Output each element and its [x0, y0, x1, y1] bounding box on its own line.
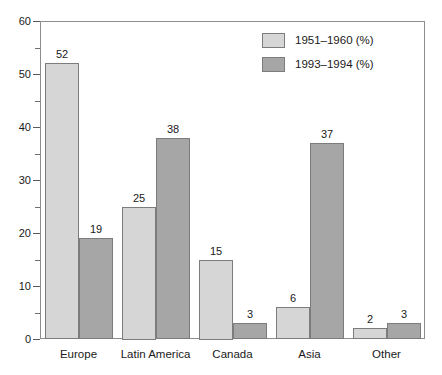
y-axis-tick-label: 60 [5, 16, 31, 27]
bar-value-label: 6 [276, 293, 310, 304]
x-axis-label-other: Other [348, 348, 425, 360]
legend-label: 1993–1994 (%) [295, 58, 374, 71]
bar-europe-series-0 [45, 63, 79, 339]
y-axis-tick-minor [35, 101, 40, 102]
bar-value-label: 38 [156, 124, 190, 135]
bar-other-series-1 [387, 323, 421, 339]
y-axis-tick-minor [35, 48, 40, 49]
x-axis-label-europe: Europe [40, 348, 117, 360]
bar-canada-series-1 [233, 323, 267, 339]
y-axis-tick-major [33, 180, 40, 181]
y-axis-tick-minor [35, 207, 40, 208]
y-axis-tick-label: 50 [5, 69, 31, 80]
bar-other-series-0 [353, 328, 387, 339]
y-axis-tick-label: 40 [5, 122, 31, 133]
bar-asia-series-0 [276, 307, 310, 339]
y-axis-tick-label: 30 [5, 175, 31, 186]
y-axis-tick-major [33, 127, 40, 128]
y-axis-tick-minor [35, 260, 40, 261]
legend-label: 1951–1960 (%) [295, 34, 374, 47]
bar-value-label: 52 [45, 49, 79, 60]
y-axis-tick-major [33, 233, 40, 234]
y-axis-tick-major [33, 286, 40, 287]
y-axis-tick-major [33, 339, 40, 340]
x-axis-label-canada: Canada [194, 348, 271, 360]
y-axis-tick-major [33, 21, 40, 22]
bar-value-label: 2 [353, 314, 387, 325]
x-axis-label-asia: Asia [271, 348, 348, 360]
bar-value-label: 3 [233, 309, 267, 320]
y-axis-tick-label: 0 [5, 334, 31, 345]
y-axis-tick-label: 10 [5, 281, 31, 292]
bar-asia-series-1 [310, 143, 344, 339]
y-axis-tick-minor [35, 313, 40, 314]
bar-chart: 0102030405060 5219253815363723 EuropeLat… [0, 0, 442, 375]
bar-value-label: 3 [387, 309, 421, 320]
x-axis-label-latin-america: Latin America [117, 348, 194, 360]
y-axis-tick-major [33, 74, 40, 75]
bar-value-label: 19 [79, 224, 113, 235]
dark-gray-swatch [262, 57, 285, 72]
y-axis-tick-label: 20 [5, 228, 31, 239]
bar-canada-series-0 [199, 260, 233, 340]
bar-value-label: 15 [199, 246, 233, 257]
bar-value-label: 37 [310, 129, 344, 140]
light-gray-swatch [262, 33, 285, 48]
y-axis-tick-minor [35, 154, 40, 155]
bar-latin-america-series-0 [122, 207, 156, 340]
bar-europe-series-1 [79, 238, 113, 339]
bar-latin-america-series-1 [156, 138, 190, 339]
bar-value-label: 25 [122, 193, 156, 204]
